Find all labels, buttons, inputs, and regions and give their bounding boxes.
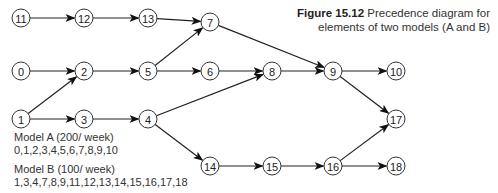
node-label: 18 [390,161,402,173]
caption-title-line2: elements of two models (A and B) [297,20,490,34]
node-label: 14 [204,161,216,173]
figure-label: Figure 15.12 [297,7,364,19]
node-10: 10 [387,62,405,80]
node-14: 14 [201,157,219,175]
model-b-name: Model B (100/ week) [14,163,188,176]
node-label: 13 [142,13,154,25]
edge-4-to-14 [155,124,202,160]
node-label: 1 [18,114,24,126]
node-7: 7 [201,13,219,31]
node-label: 5 [145,66,151,78]
node-6: 6 [201,62,219,80]
node-label: 11 [15,13,26,25]
node-2: 2 [75,62,93,80]
node-13: 13 [139,9,157,27]
node-16: 16 [324,157,342,175]
model-a-elements: 0,1,2,3,4,5,6,7,8,9,10 [14,144,118,157]
edge-1-to-2 [28,77,76,114]
edge-5-to-7 [155,28,202,66]
node-label: 3 [81,114,87,126]
node-label: 17 [390,114,402,126]
node-12: 12 [75,9,93,27]
node-9: 9 [324,62,342,80]
node-17: 17 [387,110,405,128]
node-label: 7 [207,17,213,29]
model-b-elements: 1,3,4,7,8,9,11,12,13,14,15,16,17,18 [14,176,188,189]
node-18: 18 [387,157,405,175]
caption-title-line1: Precedence diagram for [367,7,490,19]
figure-caption: Figure 15.12 Precedence diagram for elem… [297,6,490,34]
model-a-info: Model A (200/ week) 0,1,2,3,4,5,6,7,8,9,… [14,131,118,157]
node-label: 9 [330,66,336,78]
node-8: 8 [263,62,281,80]
node-4: 4 [139,110,157,128]
node-label: 8 [269,66,275,78]
model-b-info: Model B (100/ week) 1,3,4,7,8,9,11,12,13… [14,163,188,189]
node-label: 0 [18,66,24,78]
node-5: 5 [139,62,157,80]
node-1: 1 [12,110,30,128]
node-label: 4 [145,114,151,126]
node-label: 12 [78,13,90,25]
node-label: 2 [81,66,87,78]
node-label: 10 [390,66,402,78]
node-3: 3 [75,110,93,128]
node-0: 0 [12,62,30,80]
node-label: 15 [266,161,278,173]
edge-4-to-8 [156,74,263,115]
node-11: 11 [12,9,30,27]
edge-13-to-7 [157,19,201,22]
node-15: 15 [263,157,281,175]
model-a-name: Model A (200/ week) [14,131,118,144]
node-label: 6 [207,66,213,78]
edge-16-to-17 [340,125,388,161]
edge-9-to-17 [340,76,388,113]
node-label: 16 [327,161,339,173]
